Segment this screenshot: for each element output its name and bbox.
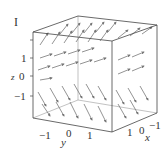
y-axis-label: y xyxy=(61,137,66,148)
x-axis-label: x xyxy=(145,132,150,143)
y-tick-neg1: −1 xyxy=(39,130,51,141)
y-tick-0: 0 xyxy=(66,128,72,139)
z-tick-1: 1 xyxy=(21,53,27,64)
x-tick-1: 1 xyxy=(127,127,133,138)
arrows-top-layer xyxy=(40,22,152,45)
z-tick-0: 0 xyxy=(19,71,25,82)
box-front-edges xyxy=(33,16,157,132)
panel-label: I xyxy=(14,16,18,28)
z-axis-ticks xyxy=(30,40,33,96)
z-axis-label: z xyxy=(11,73,15,82)
y-tick-1: 1 xyxy=(87,130,93,141)
x-tick-neg1: −1 xyxy=(149,120,161,131)
arrows-bottom-layer xyxy=(38,84,148,122)
z-tick-neg1: −1 xyxy=(14,91,26,102)
arrows-middle-layer xyxy=(38,48,144,80)
x-tick-0: 0 xyxy=(139,125,145,136)
